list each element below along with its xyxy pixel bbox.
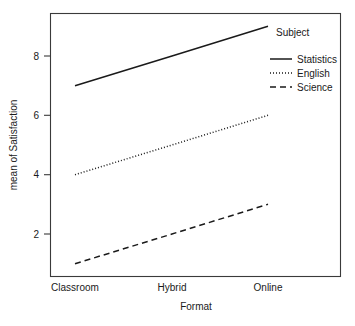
legend-title: Subject: [276, 27, 310, 38]
x-tick-label-hybrid: Hybrid: [158, 282, 187, 293]
chart-canvas: 8 6 4 2 mean of Satisfaction Classroom H…: [0, 0, 355, 326]
legend-label-science: Science: [297, 82, 333, 93]
y-tick-label-8: 8: [33, 51, 39, 62]
interaction-plot: 8 6 4 2 mean of Satisfaction Classroom H…: [0, 0, 355, 326]
chart-background: [0, 0, 355, 326]
y-tick-label-6: 6: [33, 110, 39, 121]
legend-label-english: English: [297, 68, 330, 79]
legend-label-statistics: Statistics: [297, 54, 337, 65]
x-tick-label-classroom: Classroom: [51, 282, 99, 293]
y-tick-label-4: 4: [33, 169, 39, 180]
x-axis-title: Format: [180, 301, 212, 312]
y-tick-label-2: 2: [33, 229, 39, 240]
x-tick-label-online: Online: [254, 282, 283, 293]
y-axis-title: mean of Satisfaction: [8, 100, 19, 191]
